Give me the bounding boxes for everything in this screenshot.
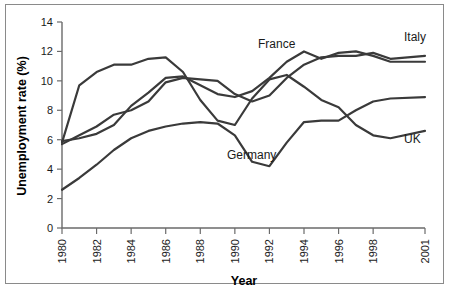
series-label-italy: Italy [404, 30, 426, 44]
data-series-group [62, 51, 425, 189]
x-axis-tick-label: 1982 [91, 239, 103, 263]
x-axis-tick-label: 1980 [56, 239, 68, 263]
x-axis-tick-label: 1996 [333, 239, 345, 263]
x-axis-tick-label: 1986 [160, 239, 172, 263]
y-axis-ticks [57, 22, 62, 228]
series-line-italy [62, 53, 425, 144]
x-axis-tick-label: 2001 [419, 239, 431, 263]
x-axis-tick-label: 1994 [298, 239, 310, 263]
x-axis-tick-label: 1988 [194, 239, 206, 263]
x-axis-ticks [62, 228, 425, 234]
series-label-uk: UK [404, 132, 421, 146]
unemployment-line-chart: 02468101214 1980198219841986198819901992… [0, 0, 452, 295]
x-axis-tick-label: 1998 [367, 239, 379, 263]
y-axis-tick-label: 0 [47, 222, 53, 234]
y-axis-tick-label: 8 [47, 104, 53, 116]
x-axis-title: Year [231, 274, 258, 288]
series-label-germany: Germany [227, 148, 276, 162]
y-axis-tick-label: 4 [47, 163, 53, 175]
series-label-france: France [258, 37, 296, 51]
x-axis-tick-label: 1984 [125, 239, 137, 263]
chart-figure: 02468101214 1980198219841986198819901992… [0, 0, 452, 295]
y-axis-tick-label: 12 [41, 45, 53, 57]
y-axis-tick-labels: 02468101214 [41, 16, 53, 234]
x-axis-tick-label: 1992 [263, 239, 275, 263]
y-axis-tick-label: 10 [41, 75, 53, 87]
x-axis-tick-labels: 1980198219841986198819901992199419961998… [56, 239, 431, 263]
y-axis-tick-label: 14 [41, 16, 53, 28]
series-line-uk [62, 57, 425, 142]
y-axis-tick-label: 6 [47, 134, 53, 146]
y-axis-title: Unemployment rate (%) [15, 56, 29, 196]
series-labels-group: FranceItalyUKGermany [227, 30, 426, 162]
y-axis-tick-label: 2 [47, 193, 53, 205]
x-axis-tick-label: 1990 [229, 239, 241, 263]
